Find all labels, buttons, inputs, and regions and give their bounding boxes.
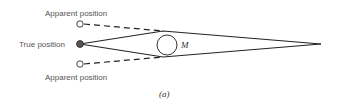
mass-circle (157, 35, 177, 55)
mass-label: M (180, 40, 189, 50)
light-ray-top (80, 31, 321, 44)
figure-caption: (a) (159, 89, 170, 99)
apparent-position-top-marker (77, 21, 83, 27)
dashed-ray-top (84, 24, 163, 31)
true-position-label: True position (19, 40, 65, 49)
apparent-position-bottom-label: Apparent position (45, 73, 107, 82)
dashed-ray-bottom (84, 57, 163, 64)
true-position-marker (77, 41, 84, 48)
light-ray-bottom (80, 44, 321, 57)
apparent-position-top-label: Apparent position (45, 9, 107, 18)
gravitational-lensing-diagram: M Apparent position True position Appare… (0, 0, 337, 104)
apparent-position-bottom-marker (77, 61, 83, 67)
